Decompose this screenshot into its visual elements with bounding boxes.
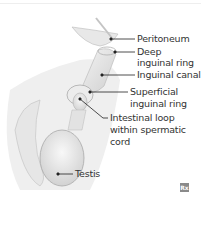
label-testis: Testis xyxy=(75,168,100,179)
label-intestinal-loop-line1: Intestinal loop xyxy=(110,112,175,123)
label-inguinal-canal: Inguinal canal xyxy=(137,69,201,80)
label-superficial-inguinal-ring-line1: Superficial xyxy=(130,86,178,97)
label-intestinal-loop-line2: within spermatic xyxy=(110,124,186,135)
label-peritoneum: Peritoneum xyxy=(137,33,189,44)
label-deep-inguinal-ring-line2: inguinal ring xyxy=(137,57,194,68)
intestinal-loop-shape xyxy=(73,93,87,111)
label-intestinal-loop-line3: cord xyxy=(110,136,130,147)
label-deep-inguinal-ring-line1: Deep xyxy=(137,46,161,57)
rx-badge-icon: Rx xyxy=(180,183,189,192)
label-superficial-inguinal-ring-line2: inguinal ring xyxy=(130,98,187,109)
